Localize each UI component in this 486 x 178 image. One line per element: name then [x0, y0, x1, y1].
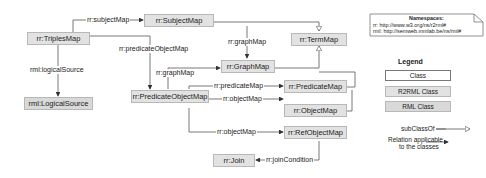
- legend-title: Legend: [398, 58, 423, 65]
- legend-rml-class: RML Class: [385, 101, 451, 112]
- node-label: rr:PredicateMap: [289, 82, 342, 91]
- edge-label-subject-map: rr:subjectMap: [86, 16, 130, 24]
- node-label: rr:TermMap: [300, 35, 338, 44]
- edge-label-graph-map-pom: rr:graphMap: [155, 69, 195, 77]
- legend-class-label: Class: [410, 72, 426, 79]
- node-label: rr:ObjectMap: [294, 106, 337, 115]
- node-triples-map: rr:TriplesMap: [27, 32, 90, 45]
- legend-relation-line1: Relation applicable: [387, 136, 444, 143]
- legend-r2rml-label: R2RML Class: [398, 88, 438, 95]
- edge-label-predicate-object-map: rr:predicateObjectMap: [118, 45, 189, 53]
- node-label: rr:Join: [224, 156, 245, 165]
- legend-subclass-of: subClassOf: [400, 125, 436, 133]
- node-ref-object-map: rr:RefObjectMap: [284, 126, 347, 139]
- node-label: rml:LogicalSource: [28, 99, 88, 108]
- edge-label-join-condition: rr:joinCondition: [265, 156, 314, 164]
- edge-label-object-map-2: rr:objectMap: [216, 128, 257, 136]
- node-label: rr:PredicateObjectMap: [132, 92, 207, 101]
- node-predicate-object-map: rr:PredicateObjectMap: [131, 90, 209, 103]
- legend-relation-line2: to the classes: [398, 143, 440, 150]
- node-subject-map: rr:SubjectMap: [144, 14, 214, 27]
- node-join: rr:Join: [213, 154, 255, 167]
- legend-class: Class: [385, 70, 451, 81]
- node-label: rr:GraphMap: [227, 62, 270, 71]
- node-label: rr:TriplesMap: [37, 34, 81, 43]
- edge-label-predicate-map: rr:predicateMap: [213, 82, 264, 90]
- legend-rml-label: RML Class: [402, 103, 434, 110]
- node-label: rr:RefObjectMap: [288, 128, 343, 137]
- namespace-rml: rml: http://semweb.mmlab.be/ns/rml#: [373, 28, 480, 35]
- node-object-map: rr:ObjectMap: [284, 104, 347, 117]
- edge-label-object-map-1: rr:objectMap: [222, 95, 263, 103]
- node-graph-map: rr:GraphMap: [221, 60, 275, 73]
- node-label: rr:SubjectMap: [156, 16, 203, 25]
- node-term-map: rr:TermMap: [291, 33, 347, 46]
- edge-label-logical-source: rml:logicalSource: [29, 66, 85, 74]
- legend-r2rml-class: R2RML Class: [385, 86, 451, 97]
- node-logical-source: rml:LogicalSource: [24, 97, 93, 110]
- namespaces-note: Namespaces: rr: http://www.w3.org/ns/r2r…: [370, 14, 483, 36]
- edge-label-graph-map-subject: rr:graphMap: [227, 38, 267, 46]
- node-predicate-map: rr:PredicateMap: [284, 80, 347, 93]
